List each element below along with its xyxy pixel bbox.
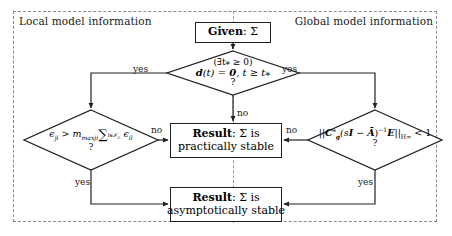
c-matrix: C⁎g bbox=[325, 127, 340, 138]
edge-label-yes-left-bottom: yes bbox=[75, 177, 90, 187]
less-than-one: < 1 bbox=[411, 127, 431, 138]
a-bar-matrix: Ā bbox=[367, 127, 374, 138]
result-practical-text: practically stable bbox=[178, 141, 274, 154]
given-label: Given bbox=[208, 25, 243, 38]
edge-label-no-left: no bbox=[151, 125, 162, 135]
result-asymptotic-text: asymptotically stable bbox=[167, 205, 285, 218]
epsilon-il: ϵil bbox=[123, 128, 132, 139]
edge-label-yes-right: yes bbox=[282, 64, 297, 74]
edge-label-yes-right-bottom: yes bbox=[358, 177, 373, 187]
region-label-local: Local model information bbox=[19, 15, 152, 27]
decision-left-text: ϵji > mmaxji∑l∈𝒫Ci ϵil ? bbox=[24, 128, 158, 152]
result-asymptotic-subject: : Σ is bbox=[232, 191, 260, 204]
decision-top-d: d bbox=[196, 67, 203, 78]
decision-top-line1: (∃t⁎ ≥ 0) bbox=[168, 57, 298, 67]
result-practically-stable-box: Result: Σ is practically stable bbox=[170, 123, 282, 158]
result-asymptotic-keyword: Result bbox=[192, 191, 232, 204]
flowchart-canvas: Local model information Global model inf… bbox=[0, 0, 452, 236]
relation-gt: > bbox=[59, 128, 73, 139]
region-label-global: Global model information bbox=[295, 15, 433, 27]
given-value: : Σ bbox=[243, 25, 258, 38]
decision-right-question: ? bbox=[305, 139, 445, 148]
given-box: Given: Σ bbox=[195, 22, 271, 43]
decision-top-text: (∃t⁎ ≥ 0) d(t) = 0, t ≥ t⁎ ? bbox=[168, 57, 298, 87]
minus-sign: − bbox=[353, 127, 367, 138]
norm-close: ||H∞ bbox=[394, 127, 411, 138]
decision-left-expression: ϵji > mmaxji∑l∈𝒫Ci ϵil bbox=[24, 128, 158, 143]
epsilon-ji: ϵji bbox=[49, 128, 58, 139]
result-practical-keyword: Result bbox=[192, 127, 232, 140]
summation-index: l∈𝒫Ci bbox=[108, 132, 121, 138]
edge-label-yes-left: yes bbox=[133, 64, 148, 74]
edge-label-no-top: no bbox=[237, 108, 248, 118]
decision-top-arg: (t) = bbox=[203, 67, 230, 78]
result-asymptotically-stable-box: Result: Σ is asymptotically stable bbox=[170, 187, 282, 222]
s-paren: (s bbox=[340, 127, 349, 138]
decision-right-text: ||C⁎g(sI − Ā)−1E||H∞ < 1 ? bbox=[305, 128, 445, 148]
decision-top-cond: , t ≥ t⁎ bbox=[236, 67, 270, 78]
result-practical-subject: : Σ is bbox=[232, 127, 260, 140]
decision-top-question: ? bbox=[168, 78, 298, 87]
decision-left-question: ? bbox=[24, 143, 158, 152]
m-maxji: mmaxji bbox=[73, 128, 99, 139]
edge-label-no-right: no bbox=[286, 125, 297, 135]
hinf-sub: H∞ bbox=[401, 133, 411, 140]
summation-symbol: ∑ bbox=[98, 127, 108, 142]
close-paren: )−1 bbox=[375, 127, 388, 138]
